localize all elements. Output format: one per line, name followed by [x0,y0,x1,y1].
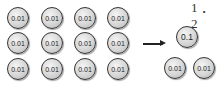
coin: 0.01 [41,58,63,80]
right-arrow-icon [143,43,163,45]
coin: 0.01 [107,58,129,80]
coin: 0.1 [176,26,198,48]
coin: 0.01 [7,32,29,54]
coin: 0.01 [107,7,129,29]
coin: 0.01 [74,32,96,54]
coin: 0.01 [41,32,63,54]
coin: 0.01 [74,7,96,29]
coin: 0.01 [7,58,29,80]
problem-label: 1．2 [191,0,223,32]
coin: 0.01 [164,57,186,79]
coin: 0.01 [193,57,215,79]
coin: 0.01 [107,32,129,54]
coin: 0.01 [41,7,63,29]
coin: 0.01 [74,58,96,80]
coin: 0.01 [7,7,29,29]
